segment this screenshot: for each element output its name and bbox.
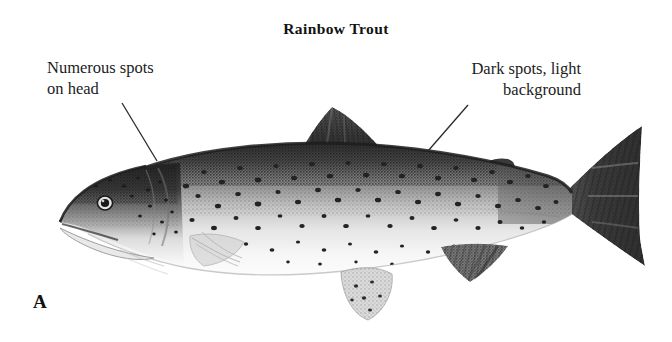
callout-body-spots: Dark spots, light background — [471, 58, 581, 100]
figure-panel: Rainbow Trout — [0, 0, 672, 342]
fish-head — [55, 160, 190, 274]
pelvic-fin — [341, 268, 392, 320]
rainbow-trout-illustration — [0, 0, 672, 342]
callout-head-spots: Numerous spots on head — [47, 57, 154, 99]
fish-eye — [97, 196, 112, 210]
panel-label: A — [33, 291, 47, 313]
